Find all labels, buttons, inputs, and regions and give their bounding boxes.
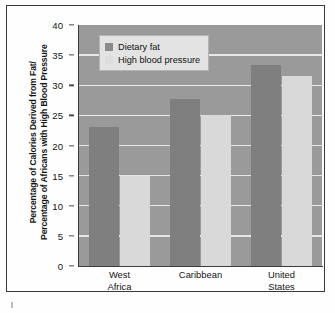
y-axis-tick-label: 30 [7,80,63,91]
y-axis-tick-mark [69,175,74,176]
legend-item: Dietary fat [105,40,200,53]
legend-swatch-icon [105,43,113,51]
bar [282,76,312,266]
y-axis-tick-mark [69,54,74,55]
y-axis-tick-label: 40 [7,20,63,31]
x-axis-category-label: UnitedStates [268,269,295,292]
chart-legend: Dietary fatHigh blood pressure [99,35,209,71]
y-axis-tick-mark [69,115,74,116]
bar [170,99,200,266]
bar [89,127,119,266]
bar [251,65,281,266]
y-axis-tick-mark [69,145,74,146]
y-axis-tick-mark [69,205,74,206]
y-axis-tick-label: 5 [7,230,63,241]
y-axis-tick-mark [69,265,74,266]
y-axis-tick-mark [69,235,74,236]
bar [201,115,231,266]
x-axis-tick-label: United [268,269,295,281]
bar [120,176,150,266]
y-axis-tick-mark [69,85,74,86]
y-axis-tick-label: 10 [7,200,63,211]
y-axis-tick-label: 25 [7,110,63,121]
x-axis-tick-label: Africa [108,281,132,293]
x-axis-tick-label: West [108,269,132,281]
y-axis-tick-label: 20 [7,140,63,151]
legend-label: Dietary fat [118,42,160,52]
legend-item: High blood pressure [105,53,200,66]
chart-frame: Percentage of Calories Derived from Fat/… [6,5,325,292]
y-axis-tick-label: 15 [7,170,63,181]
x-axis-line [79,266,323,267]
x-axis-category-label: WestAfrica [108,269,132,292]
y-axis-tick-mark [69,24,74,25]
y-axis-ticks: 0510152025303540 [7,25,79,266]
y-axis-tick-label: 35 [7,50,63,61]
y-axis-tick-label: 0 [7,261,63,272]
page-footer-mark [11,302,13,308]
legend-swatch-icon [105,56,113,64]
x-axis-tick-label: States [268,281,295,293]
x-axis-tick-label: Caribbean [179,269,222,281]
plot-area: Dietary fatHigh blood pressure [79,25,322,266]
x-axis-category-label: Caribbean [179,269,222,281]
chart-figure: Percentage of Calories Derived from Fat/… [0,0,335,313]
x-axis-labels: WestAfricaCaribbeanUnitedStates [79,269,322,297]
legend-label: High blood pressure [118,55,200,65]
